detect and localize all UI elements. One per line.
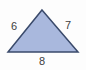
side-label-right: 7 bbox=[62, 20, 74, 31]
side-label-bottom: 8 bbox=[36, 56, 48, 67]
triangle-figure: 6 7 8 bbox=[0, 0, 86, 70]
side-label-left: 6 bbox=[8, 21, 20, 32]
